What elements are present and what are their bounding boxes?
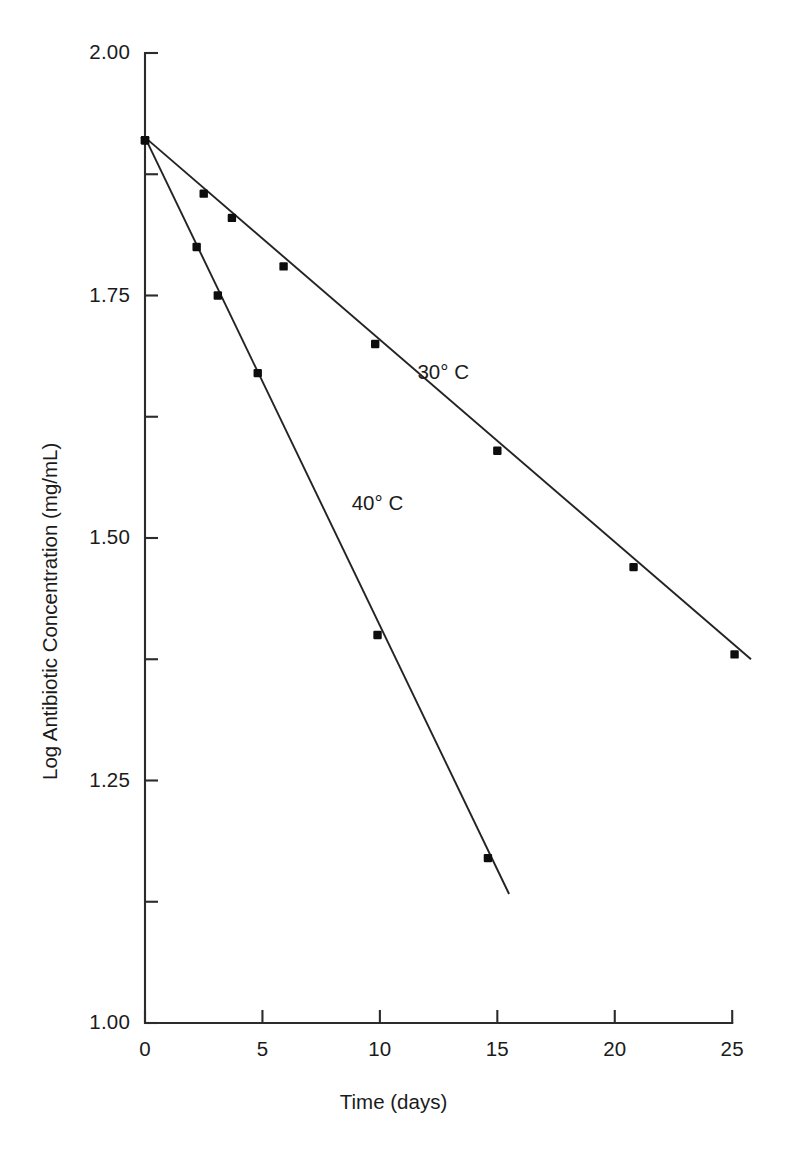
data-point — [192, 243, 200, 251]
data-point — [254, 369, 262, 377]
chart-figure: 1.001.251.501.752.00 0510152025 30° C40°… — [0, 0, 787, 1149]
markers-group — [141, 136, 739, 862]
x-tick-label: 10 — [340, 1037, 420, 1061]
y-axis-title: Log Antibiotic Concentration (mg/mL) — [38, 443, 62, 780]
series-label-40c: 40° C — [352, 491, 404, 515]
plot-area — [0, 0, 787, 1149]
axis-spines — [145, 53, 732, 1023]
x-tick-label: 25 — [692, 1037, 772, 1061]
y-tick-label: 1.00 — [40, 1010, 130, 1034]
series-group — [145, 137, 751, 894]
data-point — [371, 340, 379, 348]
series-label-30c: 30° C — [417, 360, 469, 384]
data-point — [200, 189, 208, 197]
x-tick-label: 15 — [457, 1037, 537, 1061]
x-axis-title: Time (days) — [0, 1090, 787, 1114]
data-point — [730, 650, 738, 658]
data-point — [279, 262, 287, 270]
axes-group — [145, 53, 732, 1023]
x-tick-label: 0 — [105, 1037, 185, 1061]
x-tick-label: 5 — [222, 1037, 302, 1061]
x-tick-label: 20 — [575, 1037, 655, 1061]
y-tick-label: 2.00 — [40, 40, 130, 64]
data-point — [141, 136, 149, 144]
data-point — [484, 854, 492, 862]
data-point — [629, 563, 637, 571]
data-point — [373, 631, 381, 639]
data-point — [214, 291, 222, 299]
data-point — [228, 214, 236, 222]
y-tick-label: 1.75 — [40, 283, 130, 307]
data-point — [493, 447, 501, 455]
